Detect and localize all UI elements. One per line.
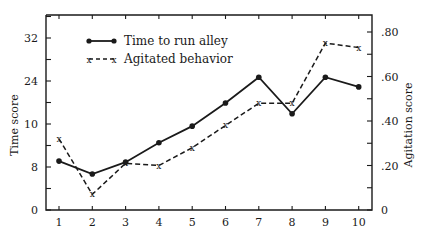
x-marker-icon: x <box>123 158 128 168</box>
x-marker-icon: x <box>356 43 361 53</box>
dot-marker-icon <box>90 171 96 177</box>
legend-dot-marker-icon <box>111 38 116 43</box>
x-tick-label: 10 <box>352 216 366 229</box>
dot-marker-icon <box>289 111 295 117</box>
dot-marker-icon <box>256 74 262 80</box>
x-marker-icon: x <box>256 98 261 108</box>
x-marker-icon: x <box>190 143 195 153</box>
x-marker-icon: x <box>156 161 161 171</box>
dot-marker-icon <box>156 140 162 146</box>
x-tick-label: 8 <box>289 216 296 229</box>
x-tick-label: 7 <box>255 216 262 229</box>
legend-x-marker-icon: x <box>86 55 91 65</box>
x-marker-icon: x <box>290 98 295 108</box>
x-tick-label: 6 <box>222 216 229 229</box>
dot-marker-icon <box>189 123 195 129</box>
right-tick-label: .40 <box>381 115 399 128</box>
x-marker-icon: x <box>223 120 228 130</box>
x-tick-label: 4 <box>155 216 162 229</box>
x-tick-label: 3 <box>122 216 129 229</box>
x-tick-label: 9 <box>322 216 329 229</box>
left-tick-label: 24 <box>24 75 38 88</box>
legend-x-marker-icon: x <box>111 55 116 65</box>
x-tick-label: 2 <box>89 216 96 229</box>
left-tick-label: 32 <box>24 32 38 45</box>
legend-label-agitation: Agitated behavior <box>123 52 233 66</box>
left-axis-ticks: 08102432 <box>24 17 51 218</box>
x-marker-icon: x <box>90 189 95 199</box>
legend: Time to run alley x x Agitated behavior <box>86 34 233 66</box>
dot-marker-icon <box>323 74 329 80</box>
left-axis-title: Time score <box>8 94 21 156</box>
x-tick-label: 1 <box>56 216 63 229</box>
dot-marker-icon <box>356 84 362 90</box>
legend-dot-marker-icon <box>86 38 91 43</box>
right-tick-label: .20 <box>381 160 399 173</box>
x-marker-icon: x <box>56 134 61 144</box>
dot-marker-icon <box>56 158 62 164</box>
x-marker-icon: x <box>323 38 328 48</box>
dot-marker-icon <box>223 100 229 106</box>
left-tick-label: 8 <box>31 161 38 174</box>
left-tick-label: 10 <box>24 118 38 131</box>
right-axis-title: Agitation score <box>402 83 415 169</box>
left-tick-label: 0 <box>31 204 38 217</box>
right-tick-label: 0 <box>381 204 388 217</box>
legend-label-time: Time to run alley <box>124 34 228 48</box>
right-tick-label: .60 <box>381 71 399 84</box>
line-chart: 08102432 0.20.40.60.80 12345678910 Time … <box>0 0 421 237</box>
x-tick-label: 5 <box>189 216 196 229</box>
right-tick-label: .80 <box>381 26 399 39</box>
series-time-to-run-alley <box>56 74 361 176</box>
